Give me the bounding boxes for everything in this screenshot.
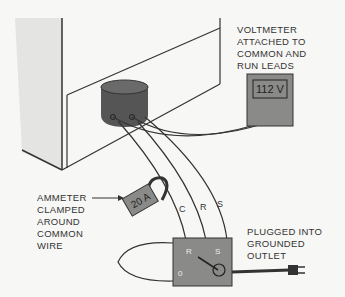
svg-text:COMMON AND: COMMON AND <box>237 48 307 59</box>
wire-label-s: S <box>217 199 223 209</box>
switch-box: R S 0 <box>173 238 232 286</box>
compressor-test-diagram: 112 V VOLTMETER ATTACHED TO COMMON AND R… <box>0 0 345 297</box>
svg-text:COMMON: COMMON <box>37 228 83 239</box>
wire-label-r: R <box>200 202 207 212</box>
position-label: 0 <box>178 269 183 278</box>
svg-text:CLAMPED: CLAMPED <box>37 204 85 215</box>
svg-text:AMMETER: AMMETER <box>37 192 87 203</box>
svg-text:PLUGGED INTO: PLUGGED INTO <box>247 226 322 237</box>
outlet-label: PLUGGED INTO GROUNDED OUTLET <box>247 226 322 261</box>
svg-text:GROUNDED: GROUNDED <box>247 238 305 249</box>
voltmeter-reading: 112 V <box>256 83 285 95</box>
terminal-r: R <box>186 247 192 256</box>
wire-labels: C R S <box>179 199 223 214</box>
ammeter-label: AMMETER CLAMPED AROUND COMMON WIRE <box>37 192 124 251</box>
ammeter: 20 A <box>122 178 167 216</box>
svg-text:RUN LEADS: RUN LEADS <box>237 60 294 71</box>
power-plug <box>232 265 305 275</box>
wire-label-c: C <box>179 204 186 214</box>
svg-text:ATTACHED TO: ATTACHED TO <box>237 36 306 47</box>
compressor <box>101 80 148 127</box>
svg-text:OUTLET: OUTLET <box>247 250 286 261</box>
loop-wire <box>118 243 173 281</box>
svg-text:VOLTMETER: VOLTMETER <box>237 24 297 35</box>
svg-text:AROUND: AROUND <box>37 216 80 227</box>
voltmeter-label: VOLTMETER ATTACHED TO COMMON AND RUN LEA… <box>237 24 307 71</box>
terminal-s: S <box>215 247 220 256</box>
svg-text:WIRE: WIRE <box>37 240 63 251</box>
voltmeter: 112 V <box>247 74 293 126</box>
